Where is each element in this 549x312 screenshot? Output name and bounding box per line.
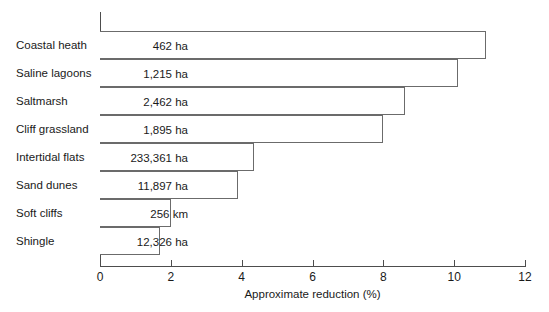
bar-value-label: 233,361 ha — [100, 143, 192, 171]
x-tick — [313, 260, 314, 267]
bar-row: 256 km — [100, 199, 525, 227]
x-tick — [454, 260, 455, 267]
category-label: Cliff grassland — [8, 122, 100, 136]
category-label: Sand dunes — [8, 178, 100, 192]
bar-value-label: 256 km — [100, 199, 192, 227]
x-tick — [171, 260, 172, 267]
category-label: Saline lagoons — [8, 66, 100, 80]
plot-area: 462 ha1,215 ha2,462 ha1,895 ha233,361 ha… — [100, 31, 549, 255]
x-tick-label: 0 — [80, 270, 120, 284]
x-tick — [525, 260, 526, 267]
x-tick — [383, 260, 384, 267]
bar-row: 12,326 ha — [100, 227, 525, 255]
bar-row: 462 ha — [100, 31, 525, 59]
category-label: Soft cliffs — [8, 206, 100, 220]
category-label: Coastal heath — [8, 38, 100, 52]
x-tick-label: 2 — [151, 270, 191, 284]
category-label: Shingle — [8, 234, 100, 248]
bar-value-label: 1,215 ha — [100, 59, 192, 87]
bar-row: 1,895 ha — [100, 115, 525, 143]
bar-value-label: 11,897 ha — [100, 171, 192, 199]
x-tick-label: 12 — [505, 270, 545, 284]
x-tick-label: 6 — [293, 270, 333, 284]
bar-value-label: 12,326 ha — [100, 227, 192, 255]
bar-row: 233,361 ha — [100, 143, 525, 171]
bar-row: 2,462 ha — [100, 87, 525, 115]
category-axis-labels: Coastal heathSaline lagoonsSaltmarshClif… — [0, 0, 100, 312]
bar-value-label: 462 ha — [100, 31, 192, 59]
x-tick-label: 10 — [434, 270, 474, 284]
bar-row: 11,897 ha — [100, 171, 525, 199]
category-label: Saltmarsh — [8, 94, 100, 108]
category-label: Intertidal flats — [8, 150, 100, 164]
bar-value-label: 1,895 ha — [100, 115, 192, 143]
bar-row: 1,215 ha — [100, 59, 525, 87]
x-tick — [242, 260, 243, 267]
x-tick — [100, 260, 101, 267]
x-tick-label: 4 — [222, 270, 262, 284]
horizontal-bar-chart: Coastal heathSaline lagoonsSaltmarshClif… — [0, 0, 549, 312]
bar-value-label: 2,462 ha — [100, 87, 192, 115]
x-tick-label: 8 — [363, 270, 403, 284]
x-axis-title: Approximate reduction (%) — [100, 288, 525, 300]
